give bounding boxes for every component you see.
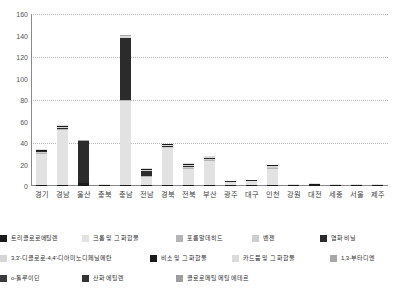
legend-swatch-icon bbox=[232, 255, 239, 262]
legend-label: o-톨루이딘 bbox=[11, 275, 40, 282]
legend-item[interactable]: 포름알데히드 bbox=[176, 228, 222, 248]
bar-segment[interactable] bbox=[183, 185, 194, 186]
legend-item[interactable]: 비소 및 그 화합물 bbox=[150, 248, 207, 268]
bar-stack[interactable] bbox=[288, 184, 299, 186]
legend-label: 카드뮴 및 그 화합물 bbox=[243, 255, 295, 262]
bar-slot[interactable] bbox=[73, 14, 94, 186]
bar-segment[interactable] bbox=[309, 184, 320, 186]
bar-stack[interactable] bbox=[309, 183, 320, 186]
legend-label: 3,3'-디클로로-4,4'-디아미노디페닐메탄 bbox=[11, 255, 112, 262]
bar-segment[interactable] bbox=[78, 183, 89, 186]
x-axis-tick-label: 전남 bbox=[136, 190, 157, 199]
bar-stack[interactable] bbox=[120, 35, 131, 186]
legend-label: 비소 및 그 화합물 bbox=[161, 255, 207, 262]
bar-stack[interactable] bbox=[204, 156, 215, 186]
legend-label: 1,3-부타디엔 bbox=[341, 255, 375, 262]
bar-stack[interactable] bbox=[99, 184, 110, 186]
bars-layer bbox=[31, 14, 388, 186]
x-axis-tick-label: 대구 bbox=[241, 190, 262, 199]
bar-slot[interactable] bbox=[325, 14, 346, 186]
x-axis-tick-label: 광주 bbox=[220, 190, 241, 199]
bar-slot[interactable] bbox=[304, 14, 325, 186]
bar-slot[interactable] bbox=[52, 14, 73, 186]
bar-slot[interactable] bbox=[220, 14, 241, 186]
bar-slot[interactable] bbox=[115, 14, 136, 186]
bar-segment[interactable] bbox=[204, 185, 215, 186]
bar-slot[interactable] bbox=[241, 14, 262, 186]
bar-slot[interactable] bbox=[283, 14, 304, 186]
x-axis-tick-label: 경기 bbox=[31, 190, 52, 199]
bar-segment[interactable] bbox=[246, 185, 257, 186]
bar-segment[interactable] bbox=[36, 154, 47, 185]
legend-row: o-톨루이딘산화 에틸렌클로로메틸 메틸 에테르 bbox=[0, 268, 396, 288]
y-axis-tick-label: 0 bbox=[24, 183, 28, 190]
bar-segment[interactable] bbox=[99, 185, 110, 186]
bar-slot[interactable] bbox=[94, 14, 115, 186]
bar-segment[interactable] bbox=[330, 185, 341, 186]
bar-stack[interactable] bbox=[36, 149, 47, 186]
bar-segment[interactable] bbox=[120, 101, 131, 185]
bar-stack[interactable] bbox=[78, 140, 89, 186]
legend-item[interactable]: 염화 비닐 bbox=[320, 228, 356, 248]
bar-segment[interactable] bbox=[204, 161, 215, 185]
bar-stack[interactable] bbox=[183, 163, 194, 186]
bar-slot[interactable] bbox=[199, 14, 220, 186]
y-axis-tick-label: 160 bbox=[16, 11, 28, 18]
legend-label: 벤젠 bbox=[263, 235, 275, 242]
legend-item[interactable]: 카드뮴 및 그 화합물 bbox=[232, 248, 295, 268]
bar-segment[interactable] bbox=[183, 169, 194, 185]
bar-slot[interactable] bbox=[178, 14, 199, 186]
bar-segment[interactable] bbox=[141, 185, 152, 186]
bar-stack[interactable] bbox=[225, 181, 236, 186]
legend-swatch-icon bbox=[252, 235, 259, 242]
bar-stack[interactable] bbox=[351, 184, 362, 186]
legend-swatch-icon bbox=[330, 255, 337, 262]
x-axis-tick-label: 충북 bbox=[94, 190, 115, 199]
bar-stack[interactable] bbox=[57, 125, 68, 186]
x-axis-tick-label: 대전 bbox=[304, 190, 325, 199]
bar-segment[interactable] bbox=[36, 185, 47, 186]
bar-segment[interactable] bbox=[78, 141, 89, 183]
legend-swatch-icon bbox=[0, 235, 7, 242]
bar-slot[interactable] bbox=[346, 14, 367, 186]
bar-segment[interactable] bbox=[120, 185, 131, 186]
bar-segment[interactable] bbox=[267, 169, 278, 185]
bar-segment[interactable] bbox=[351, 185, 362, 186]
legend-label: 포름알데히드 bbox=[187, 235, 222, 242]
bar-segment[interactable] bbox=[372, 185, 383, 186]
bar-segment[interactable] bbox=[225, 185, 236, 186]
bar-segment[interactable] bbox=[267, 185, 278, 186]
bar-stack[interactable] bbox=[141, 168, 152, 186]
bar-stack[interactable] bbox=[246, 180, 257, 186]
x-axis-tick-label: 서울 bbox=[346, 190, 367, 199]
legend-item[interactable]: 1,3-부타디엔 bbox=[330, 248, 375, 268]
bar-segment[interactable] bbox=[120, 38, 131, 99]
bar-chart: 020406080100120140160 경기경남울산충북충남전남경북전북부산… bbox=[0, 0, 396, 304]
bar-slot[interactable] bbox=[31, 14, 52, 186]
x-axis-labels: 경기경남울산충북충남전남경북전북부산광주대구인천강원대전세종서울제주 bbox=[31, 190, 388, 199]
legend-item[interactable]: 산화 에틸렌 bbox=[82, 268, 124, 288]
bar-stack[interactable] bbox=[372, 184, 383, 186]
legend-item[interactable]: 클로로메틸 메틸 에테르 bbox=[176, 268, 249, 288]
bar-stack[interactable] bbox=[267, 165, 278, 186]
legend-item[interactable]: 트리클로로에틸렌 bbox=[0, 228, 58, 248]
bar-segment[interactable] bbox=[57, 130, 68, 185]
bar-segment[interactable] bbox=[162, 148, 173, 185]
bar-slot[interactable] bbox=[367, 14, 388, 186]
legend-item[interactable]: 벤젠 bbox=[252, 228, 275, 248]
legend-item[interactable]: o-톨루이딘 bbox=[0, 268, 40, 288]
x-axis-tick-label: 제주 bbox=[367, 190, 388, 199]
legend-item[interactable]: 크롬 및 그 화합물 bbox=[82, 228, 139, 248]
bar-stack[interactable] bbox=[162, 144, 173, 186]
bar-slot[interactable] bbox=[262, 14, 283, 186]
bar-stack[interactable] bbox=[330, 184, 341, 186]
y-axis-tick-label: 140 bbox=[16, 32, 28, 39]
bar-segment[interactable] bbox=[57, 185, 68, 186]
legend-item[interactable]: 3,3'-디클로로-4,4'-디아미노디페닐메탄 bbox=[0, 248, 112, 268]
bar-segment[interactable] bbox=[288, 185, 299, 186]
bar-slot[interactable] bbox=[157, 14, 178, 186]
bar-segment[interactable] bbox=[141, 177, 152, 185]
bar-slot[interactable] bbox=[136, 14, 157, 186]
bar-segment[interactable] bbox=[162, 185, 173, 186]
legend-label: 크롬 및 그 화합물 bbox=[93, 235, 139, 242]
